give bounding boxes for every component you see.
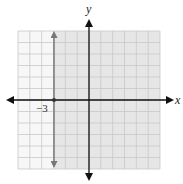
intercept-point [52, 98, 56, 102]
coordinate-plane [0, 0, 183, 184]
y-axis-label: y [86, 3, 91, 15]
tick-label-neg3: −3 [36, 103, 48, 114]
x-axis-label: x [175, 94, 180, 106]
